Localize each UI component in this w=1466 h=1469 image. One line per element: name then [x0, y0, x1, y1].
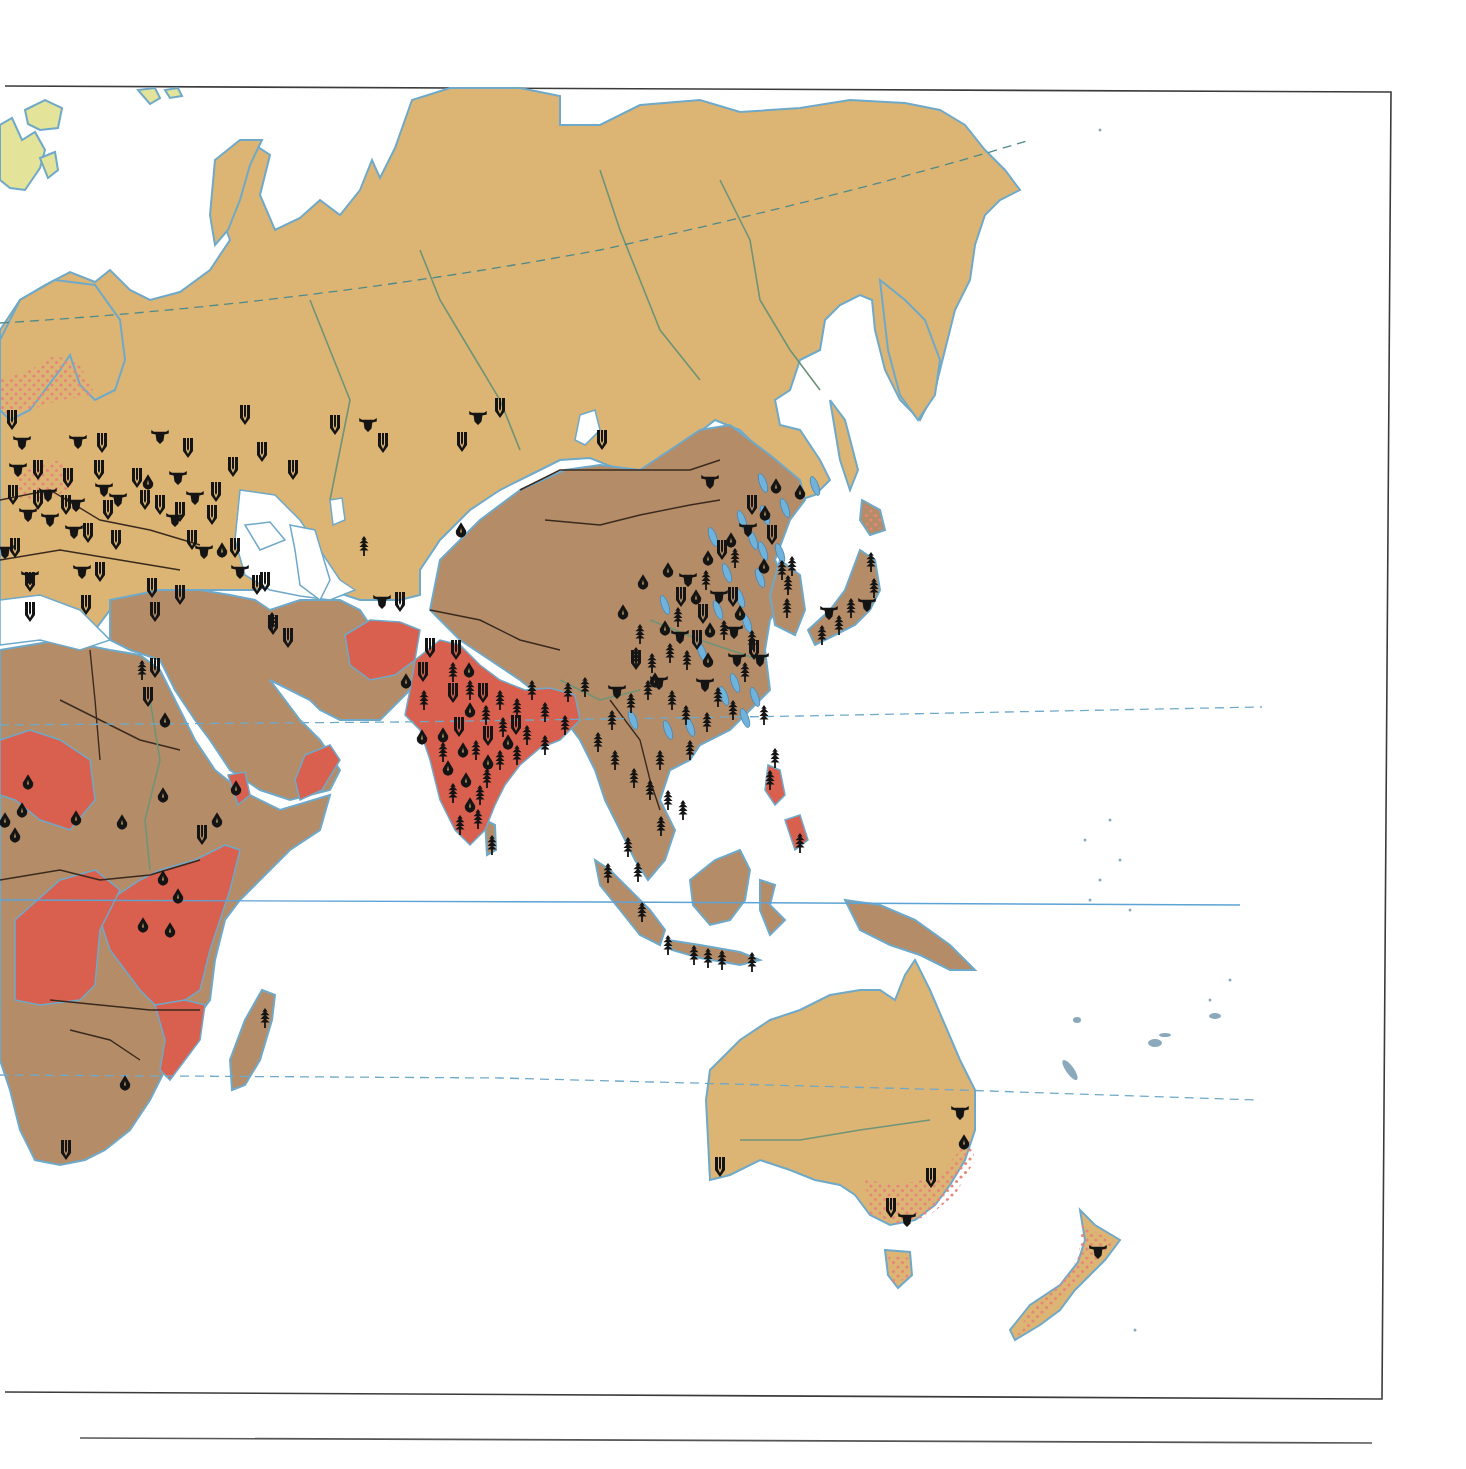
- map-canvas: [0, 0, 1466, 1469]
- wheat-icon: [395, 592, 405, 612]
- cattle-icon: [373, 595, 391, 609]
- rice-icon: [770, 748, 779, 768]
- rice-icon: [678, 800, 687, 820]
- tropic-of-capricorn-line: [0, 1075, 1255, 1100]
- arctic-islands: [0, 88, 182, 190]
- rice-icon: [663, 935, 672, 955]
- bottom-rule: [80, 1438, 1372, 1443]
- rice-icon: [663, 790, 672, 810]
- pacific-islands: [1060, 129, 1232, 1332]
- landmass-australia: [706, 960, 1120, 1340]
- rice-icon: [759, 705, 768, 725]
- maize-icon: [456, 522, 467, 537]
